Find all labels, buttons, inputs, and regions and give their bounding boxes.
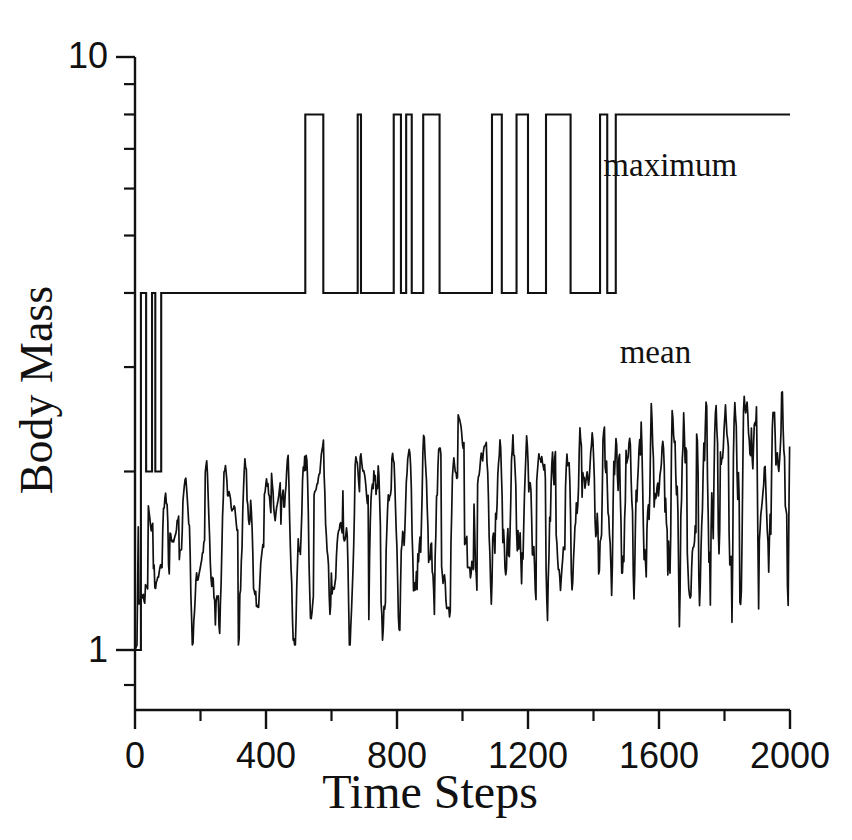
x-tick-label-1600: 1600 bbox=[619, 735, 699, 776]
x-tick-label-400: 400 bbox=[236, 735, 296, 776]
x-tick-label-2000: 2000 bbox=[750, 735, 830, 776]
x-tick-label-0: 0 bbox=[125, 735, 145, 776]
y-axis-title: Body Mass bbox=[11, 286, 62, 494]
y-tick-label-10: 10 bbox=[68, 35, 108, 76]
figure-canvas: 0400800120016002000 10 1 Body Mass Time … bbox=[0, 0, 852, 840]
x-axis-title: Time Steps bbox=[322, 765, 538, 818]
series-label-maximum: maximum bbox=[603, 147, 737, 183]
body-mass-time-series-chart: 0400800120016002000 10 1 Body Mass Time … bbox=[0, 0, 852, 840]
series-label-mean: mean bbox=[620, 334, 691, 370]
y-tick-label-1: 1 bbox=[88, 629, 108, 670]
